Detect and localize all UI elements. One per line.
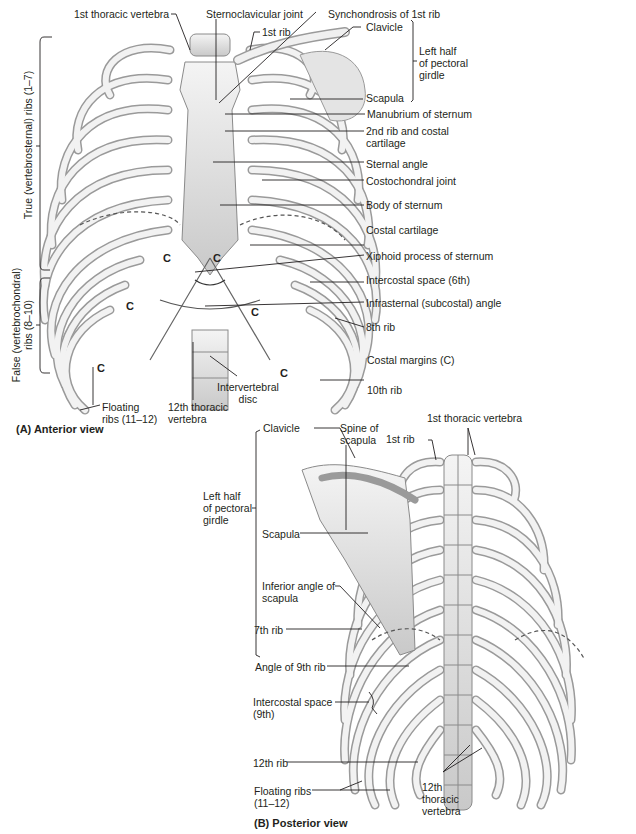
label-clavicle-anterior: Clavicle [366,21,403,33]
posterior-view-title: (B) Posterior view [254,817,348,829]
label-intercostal-space-6th: Intercostal space (6th) [366,274,470,286]
label-1st-thoracic-vertebra-posterior: 1st thoracic vertebra [427,412,522,424]
label-floating-ribs-anterior: Floating ribs (11–12) [102,401,157,425]
label-infrasternal-angle: Infrasternal (subcostal) angle [366,297,501,309]
label-scapula-posterior: Scapula [262,528,300,540]
costal-margin-marker: C [251,306,259,318]
label-12th-thoracic-vertebra-anterior: 12th thoracic vertebra [168,401,228,425]
label-xiphoid-process: Xiphoid process of sternum [366,250,493,262]
label-12th-rib: 12th rib [253,757,288,769]
costal-margin-marker: C [213,252,221,264]
label-costochondral-joint: Costochondral joint [366,175,456,187]
label-synchondrosis-1st-rib: Synchondrosis of 1st rib [328,8,440,20]
label-costal-margins: Costal margins (C) [367,354,455,366]
costal-margin-marker: C [126,300,134,312]
label-1st-rib-anterior: 1st rib [262,26,291,38]
label-spine-of-scapula: Spine of scapula [340,422,379,446]
costal-margin-marker: C [97,362,105,374]
label-angle-9th-rib: Angle of 9th rib [255,661,326,673]
label-clavicle-posterior: Clavicle [263,422,300,434]
label-intercostal-space-9th: Intercostal space (9th) [253,696,332,720]
label-sternoclavicular-joint: Sternoclavicular joint [206,8,303,20]
label-costal-cartilage: Costal cartilage [366,224,438,236]
label-body-of-sternum: Body of sternum [366,199,442,211]
label-12th-thoracic-vertebra-posterior: 12th thoracic vertebra [422,781,461,817]
label-manubrium: Manubrium of sternum [367,108,472,120]
label-scapula-anterior: Scapula [366,92,404,104]
label-2nd-rib-costal-cartilage: 2nd rib and costal cartilage [366,125,449,149]
label-1st-thoracic-vertebra-anterior: 1st thoracic vertebra [74,8,169,20]
label-left-half-pectoral-girdle-posterior: Left half of pectoral girdle [203,490,252,526]
label-inferior-angle-scapula: Inferior angle of scapula [262,580,335,604]
anterior-view-title: (A) Anterior view [16,423,104,435]
label-7th-rib: 7th rib [254,624,283,636]
label-sternal-angle: Sternal angle [366,158,428,170]
label-left-half-pectoral-girdle-anterior: Left half of pectoral girdle [419,45,468,81]
label-floating-ribs-posterior: Floating ribs (11–12) [254,785,311,809]
label-true-ribs: True (vertebrosternal) ribs (1–7) [22,45,34,245]
costal-margin-marker: C [280,367,288,379]
label-false-ribs: False (vertebrochondral) ribs (8–10) [10,265,34,385]
label-10th-rib: 10th rib [367,384,402,396]
label-8th-rib: 8th rib [366,321,395,333]
label-1st-rib-posterior: 1st rib [386,433,415,445]
costal-margin-marker: C [163,252,171,264]
